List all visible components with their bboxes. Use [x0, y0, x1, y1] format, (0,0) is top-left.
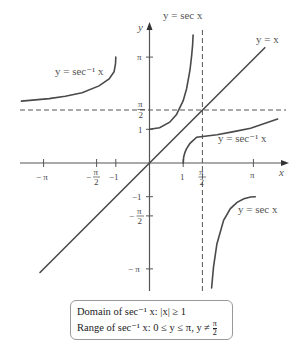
- svg-text:−: −: [86, 172, 91, 182]
- domain-range-box: Domain of sec⁻¹ x: |x| ≥ 1 Range of sec⁻…: [70, 300, 233, 340]
- label-arcsec-right: y = sec⁻¹ x: [218, 132, 267, 144]
- svg-text:π: π: [199, 167, 204, 177]
- y-axis-arrow-icon: [147, 22, 153, 30]
- svg-text:2: 2: [94, 177, 99, 187]
- svg-text:2: 2: [138, 216, 143, 226]
- arcsec-left-branch: [21, 57, 115, 101]
- y-tick-pi: π: [137, 52, 142, 62]
- label-sec-upper: y = sec x: [163, 9, 203, 21]
- y-tick-half-pi: π 2: [138, 99, 146, 120]
- label-sec-lower: y = sec x: [238, 203, 278, 215]
- svg-text:2: 2: [139, 110, 144, 120]
- label-arcsec-left: y = sec⁻¹ x: [55, 65, 104, 77]
- y-axis-label: y: [137, 21, 143, 33]
- svg-text:2: 2: [200, 177, 205, 187]
- identity-line: [40, 48, 265, 273]
- x-tick-half-pi: π 2: [199, 167, 207, 187]
- range-text: Range of sec⁻¹ x: 0 ≤ y ≤ π, y ≠ π2: [77, 320, 226, 337]
- y-tick-one: 1: [138, 125, 143, 135]
- range-prefix: Range of sec⁻¹ x: 0 ≤ y ≤ π, y ≠: [77, 322, 213, 333]
- svg-text:π: π: [138, 99, 143, 109]
- svg-text:π: π: [137, 206, 142, 216]
- x-axis-label: x: [278, 166, 284, 178]
- domain-text: Domain of sec⁻¹ x: |x| ≥ 1: [77, 304, 226, 320]
- x-tick-neg-pi: − π: [36, 172, 48, 182]
- svg-text:π: π: [94, 167, 99, 177]
- y-tick-neg-half-pi: − π 2: [129, 206, 144, 226]
- x-tick-neg-half-pi: − π 2: [86, 167, 100, 187]
- graph-sec-arcsec: − π − π 2 −1 1 π 2 π π π 2 1 −1 − π 2 − …: [0, 0, 301, 300]
- label-identity: y = x: [256, 33, 279, 45]
- x-tick-neg-one: −1: [109, 172, 119, 182]
- x-tick-one: 1: [180, 172, 185, 182]
- sec-upper-branch: [150, 35, 194, 129]
- y-tick-neg-pi: − π: [128, 264, 140, 274]
- y-tick-neg-one: −1: [132, 192, 142, 202]
- x-tick-pi: π: [250, 170, 255, 180]
- svg-text:−: −: [129, 211, 134, 221]
- range-fraction: π2: [213, 320, 217, 337]
